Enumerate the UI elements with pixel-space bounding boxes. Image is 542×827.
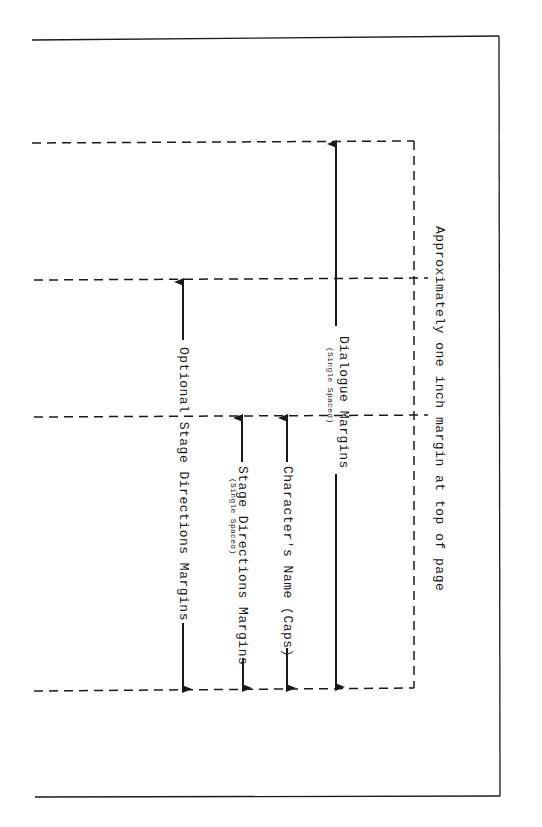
character-stage-margin-line	[34, 415, 428, 417]
dialogue-margins-label: Dialogue Margins	[337, 336, 350, 469]
dialogue-margin-line	[32, 141, 414, 143]
page-diagram	[0, 0, 542, 827]
optional-stage-directions-margin-line	[34, 278, 428, 280]
optional-stage-directions-label: Optional Stage Directions Margins	[177, 347, 190, 621]
bottom-margin-line	[34, 688, 414, 691]
dashed-margin-lines	[32, 141, 428, 691]
stage-directions-note-label: (Single Spaced)	[229, 478, 237, 555]
top-margin-label: Approximately one inch margin at top of …	[433, 226, 446, 591]
character-name-label: Character's Name (Caps)	[281, 466, 294, 657]
dialogue-note-label: (Single Spaced)	[326, 347, 334, 424]
